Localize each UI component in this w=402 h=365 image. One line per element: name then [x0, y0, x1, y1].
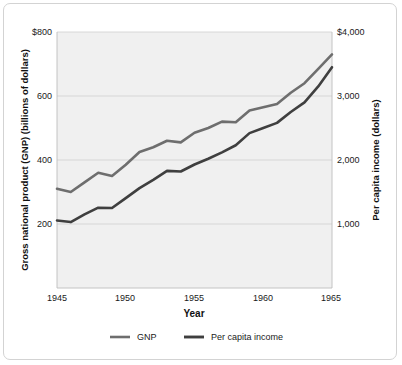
- x-tick-1960: 1960: [253, 293, 273, 303]
- x-axis-title: Year: [183, 308, 204, 319]
- right-tick-3000: 3,000: [337, 91, 360, 101]
- left-tick-600: 600: [37, 91, 52, 101]
- right-tick-2000: 2,000: [337, 155, 360, 165]
- y2-axis-title: Per capita income (dollars): [370, 99, 381, 220]
- right-axis-ticks: $4,000 3,000 2,000 1,000: [337, 27, 365, 229]
- right-tick-4000: $4,000: [337, 27, 365, 37]
- x-tick-1950: 1950: [115, 293, 135, 303]
- x-axis-ticks: 1945 1950 1955 1960 1965: [47, 293, 341, 303]
- left-tick-400: 400: [37, 155, 52, 165]
- left-tick-800: $800: [32, 27, 52, 37]
- x-tick-1965: 1965: [321, 293, 341, 303]
- right-tick-1000: 1,000: [337, 219, 360, 229]
- legend-label-gnp: GNP: [137, 332, 157, 342]
- left-axis-ticks: $800 600 400 200: [32, 27, 52, 229]
- chart-legend: GNP Per capita income: [110, 332, 283, 342]
- legend-label-per-capita-income: Per capita income: [211, 332, 283, 342]
- left-tick-200: 200: [37, 219, 52, 229]
- x-tick-1955: 1955: [184, 293, 204, 303]
- chart-figure: $800 600 400 200 $4,000 3,000 2,000 1,00…: [0, 0, 402, 365]
- line-chart: $800 600 400 200 $4,000 3,000 2,000 1,00…: [0, 0, 402, 365]
- x-tick-1945: 1945: [47, 293, 67, 303]
- y-axis-title: Gross national product (GNP) (billions o…: [19, 49, 30, 271]
